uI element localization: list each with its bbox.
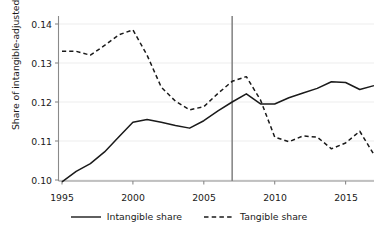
legend-label-tangible-share: Tangible share bbox=[240, 212, 307, 221]
legend-item-intangible-share: Intangible share bbox=[71, 212, 182, 221]
legend-swatch-dashed-icon bbox=[204, 213, 234, 221]
plot-area bbox=[0, 0, 378, 239]
legend-label-intangible-share: Intangible share bbox=[107, 212, 182, 221]
tick-marks bbox=[55, 24, 346, 185]
legend-item-tangible-share: Tangible share bbox=[204, 212, 307, 221]
legend-swatch-solid-icon bbox=[71, 213, 101, 221]
axis-lines bbox=[59, 16, 375, 181]
chart-figure: Share of intangible-adjusted GDP 0.14 0.… bbox=[0, 0, 378, 239]
gridlines bbox=[59, 24, 375, 180]
series-lines bbox=[62, 30, 374, 182]
chart-legend: Intangible share Tangible share bbox=[0, 212, 378, 221]
